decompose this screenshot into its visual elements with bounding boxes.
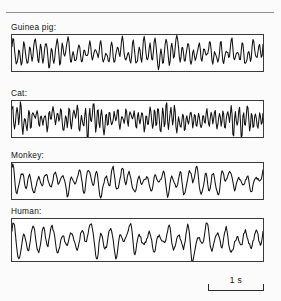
trace-frame-guinea-pig xyxy=(11,34,264,72)
trace-label-guinea-pig: Guinea pig: xyxy=(11,22,264,32)
trace-label-cat: Cat: xyxy=(11,88,264,98)
scale-bar-tick-right xyxy=(263,284,264,291)
time-scale-bar: 1 s xyxy=(208,276,264,294)
trace-plot-cat xyxy=(12,101,263,137)
trace-frame-human xyxy=(11,218,264,262)
trace-frame-monkey xyxy=(11,162,264,200)
trace-label-monkey: Monkey: xyxy=(11,150,264,160)
trace-frame-cat xyxy=(11,100,264,138)
scale-bar-label: 1 s xyxy=(208,275,264,285)
trace-label-human: Human: xyxy=(11,206,264,216)
trace-block-guinea-pig: Guinea pig: xyxy=(11,22,264,72)
trace-plot-human xyxy=(12,219,263,261)
trace-block-monkey: Monkey: xyxy=(11,150,264,200)
trace-plot-guinea-pig xyxy=(12,35,263,71)
trace-block-human: Human: xyxy=(11,206,264,262)
scale-bar-tick-left xyxy=(208,284,209,291)
top-horizontal-rule xyxy=(6,12,274,13)
figure-root: Guinea pig: Cat: Monkey: Human: xyxy=(0,0,281,301)
trace-block-cat: Cat: xyxy=(11,88,264,138)
scale-bar-line xyxy=(208,290,264,291)
trace-plot-monkey xyxy=(12,163,263,199)
